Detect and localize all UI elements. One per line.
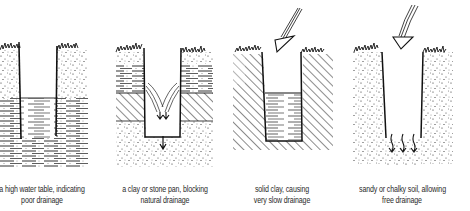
grass-right (423, 46, 446, 52)
caption-line: a high water table, indicating (0, 185, 85, 196)
grass-left (116, 43, 142, 52)
pit-wall-right (421, 52, 423, 138)
clay-pan-right (180, 93, 213, 121)
panel-solid-clay (233, 8, 333, 150)
caption-high-water-table: a high water table, indicating poor drai… (0, 185, 85, 206)
sandy-soil-right (57, 50, 87, 100)
grass-right (301, 47, 324, 53)
panel-clay-stone-pan (116, 43, 214, 167)
caption-clay-stone-pan: a clay or stone pan, blocking natural dr… (122, 185, 208, 206)
caption-line: free drainage (359, 196, 445, 207)
perched-water-left (116, 64, 144, 92)
sandy-soil-left (353, 52, 383, 164)
grass-left (235, 45, 261, 52)
grass-right (57, 43, 78, 50)
rain-arrow-icon (275, 36, 294, 52)
grass-left (0, 42, 20, 50)
drainage-illustration (0, 0, 470, 211)
rain-arrow-icon (393, 37, 413, 49)
panel-high-water-table (0, 42, 88, 167)
caption-solid-clay: solid clay, causing very slow drainage (239, 185, 325, 206)
standing-water (266, 94, 302, 140)
caption-line: poor drainage (0, 196, 85, 207)
sandy-soil-left (0, 50, 20, 100)
arrow-down-right (163, 112, 169, 119)
caption-line: very slow drainage (239, 196, 325, 207)
grass-left (354, 43, 378, 52)
arrow-down-left (157, 112, 163, 119)
clay-pan-left (116, 93, 145, 121)
caption-line: natural drainage (122, 196, 208, 207)
sandy-soil-right (423, 52, 453, 164)
panel-sandy-chalky-soil (353, 5, 453, 166)
perched-water-right (181, 64, 213, 92)
pit-wall-right (56, 46, 57, 136)
water-in-pit (21, 98, 56, 138)
caption-line: a clay or stone pan, blocking (122, 185, 208, 196)
grass-right (181, 46, 205, 52)
caption-sandy-chalky-soil: sandy or chalky soil, allowing free drai… (359, 185, 445, 206)
caption-line: solid clay, causing (239, 185, 325, 196)
caption-line: sandy or chalky soil, allowing (359, 185, 445, 196)
